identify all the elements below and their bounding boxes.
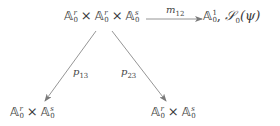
node-bottom-left: 𝔸r0×𝔸s0 <box>10 105 55 120</box>
node-bottom-right: 𝔸r0×𝔸s0 <box>151 105 196 120</box>
subscript: 0 <box>73 17 77 24</box>
node-top-product: 𝔸r0×𝔸r0×𝔸s0 <box>64 9 139 24</box>
affine-space-symbol: 𝔸 <box>182 105 191 119</box>
label-subscript: 12 <box>175 10 184 18</box>
times-operator: × <box>168 104 179 119</box>
sheaf-argument: (ψ) <box>240 8 260 23</box>
subscript: 0 <box>104 17 108 24</box>
times-operator: × <box>27 104 38 119</box>
affine-space-symbol: 𝔸 <box>64 9 73 23</box>
node-right-target: 𝔸10,𝒮0(ψ) <box>203 9 260 25</box>
subscript: 0 <box>191 113 195 120</box>
label-m12: m12 <box>166 5 184 18</box>
affine-space-symbol: 𝔸 <box>41 105 50 119</box>
label-subscript: 23 <box>127 72 136 80</box>
arrow-p13 <box>45 31 96 101</box>
label-subscript: 13 <box>79 72 88 80</box>
subscript: 0 <box>135 17 139 24</box>
subscript: 0 <box>50 113 54 120</box>
subscript: 0 <box>19 113 23 120</box>
times-operator: × <box>81 8 92 23</box>
affine-space-symbol: 𝔸 <box>95 9 104 23</box>
label-p13: p13 <box>73 67 88 80</box>
affine-space-symbol: 𝔸 <box>151 105 160 119</box>
label-p23: p23 <box>121 67 136 80</box>
affine-space-symbol: 𝔸 <box>126 9 135 23</box>
comma: , <box>217 8 221 23</box>
times-operator: × <box>112 8 123 23</box>
affine-space-symbol: 𝔸 <box>10 105 19 119</box>
subscript: 0 <box>160 113 164 120</box>
affine-space-symbol: 𝔸 <box>203 9 212 23</box>
sheaf-symbol: 𝒮 <box>225 8 235 23</box>
